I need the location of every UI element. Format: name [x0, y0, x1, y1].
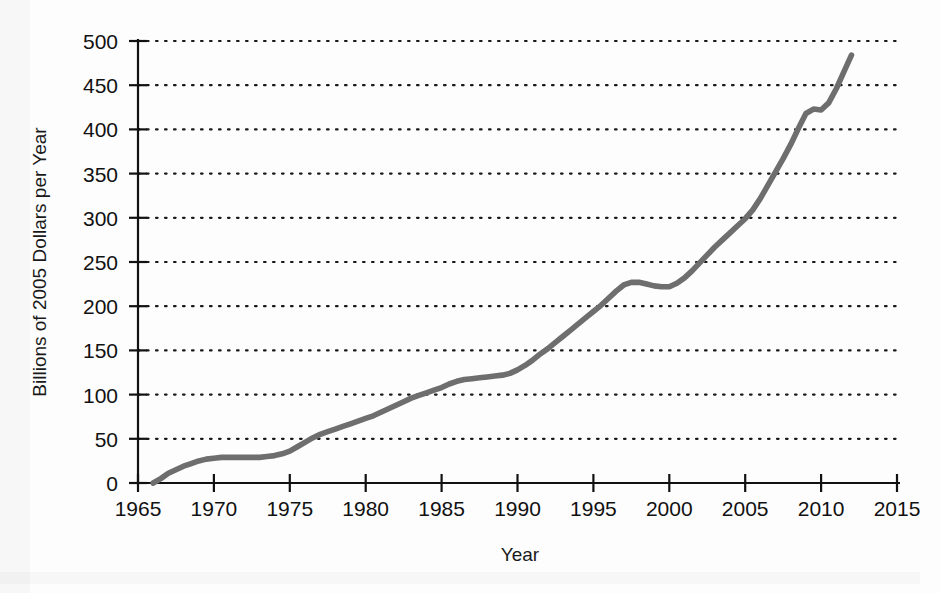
x-tick-label-2005: 2005	[722, 497, 769, 520]
y-tick-label-350: 350	[83, 163, 118, 186]
y-tick-label-250: 250	[83, 251, 118, 274]
y-tick-label-300: 300	[83, 207, 118, 230]
x-tick-label-1965: 1965	[115, 497, 162, 520]
y-tick-label-100: 100	[83, 384, 118, 407]
y-tick-label-400: 400	[83, 118, 118, 141]
scan-edge-artifact	[0, 0, 30, 593]
y-axis-tick-labels: 050100150200250300350400450500	[83, 30, 118, 495]
x-tick-label-1980: 1980	[342, 497, 389, 520]
x-tick-label-1990: 1990	[494, 497, 541, 520]
chart-page: 1965197019751980198519901995200020052010…	[0, 0, 941, 593]
scan-artifact	[0, 572, 920, 584]
x-tick-label-1985: 1985	[418, 497, 465, 520]
y-tick-label-450: 450	[83, 74, 118, 97]
y-tick-label-50: 50	[95, 428, 118, 451]
x-axis-title: Year	[501, 544, 540, 565]
data-series	[153, 55, 851, 483]
y-tick-label-200: 200	[83, 295, 118, 318]
x-tick-label-2000: 2000	[646, 497, 693, 520]
x-tick-label-1975: 1975	[266, 497, 313, 520]
x-tick-label-2010: 2010	[798, 497, 845, 520]
line-chart: 1965197019751980198519901995200020052010…	[0, 0, 941, 593]
x-axis-tick-labels: 1965197019751980198519901995200020052010…	[115, 497, 921, 520]
x-tick-label-2015: 2015	[874, 497, 921, 520]
data-line-Spending	[153, 55, 851, 483]
gridlines	[138, 41, 897, 439]
y-axis-title: Billions of 2005 Dollars per Year	[29, 127, 50, 397]
y-tick-label-0: 0	[106, 472, 118, 495]
x-tick-label-1995: 1995	[570, 497, 617, 520]
y-tick-label-500: 500	[83, 30, 118, 53]
x-tick-label-1970: 1970	[191, 497, 238, 520]
y-tick-label-150: 150	[83, 339, 118, 362]
